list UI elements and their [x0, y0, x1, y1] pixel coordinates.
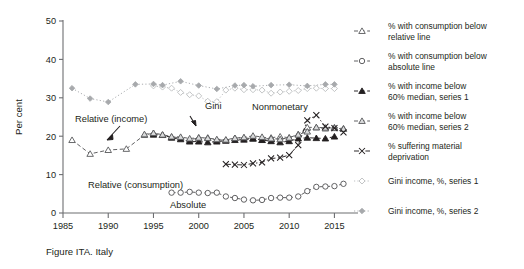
- y-tick-label: 10: [46, 170, 56, 180]
- figure-container: 010203040501985199019952000200520102015P…: [0, 0, 524, 269]
- legend-label: Gini income, %, series 2: [388, 206, 479, 216]
- legend-label-line2: absolute line: [388, 62, 435, 72]
- x-tick-label: 1995: [143, 221, 163, 231]
- x-tick-label: 1990: [98, 221, 118, 231]
- legend-label: % with consumption below: [388, 21, 488, 31]
- legend-label-line2: deprivation: [388, 152, 429, 162]
- x-tick-label: 2005: [234, 221, 254, 231]
- x-tick-label: 2015: [324, 221, 344, 231]
- x-tick-label: 2000: [188, 221, 208, 231]
- chart-canvas: 010203040501985199019952000200520102015P…: [0, 0, 524, 269]
- x-tick-label: 2010: [279, 221, 299, 231]
- y-tick-label: 20: [46, 132, 56, 142]
- y-tick-label: 30: [46, 93, 56, 103]
- legend-label: % with income below: [388, 81, 467, 91]
- y-tick-label: 40: [46, 55, 56, 65]
- x-tick-label: 1985: [53, 221, 73, 231]
- plot-annotation-5: Absolute: [170, 200, 206, 210]
- y-tick-label: 0: [51, 208, 56, 218]
- legend-label-line2: 60% median, series 1: [388, 92, 469, 102]
- legend-label-line2: relative line: [388, 32, 431, 42]
- legend-marker-open-circle-icon: [359, 58, 364, 63]
- figure-caption: Figure ITA. Italy: [46, 246, 113, 257]
- y-tick-label: 50: [46, 16, 56, 26]
- legend-label: % suffering material: [388, 141, 462, 151]
- plot-annotation-2: Nonmonetary: [252, 102, 308, 112]
- legend-label-line2: 60% median, series 2: [388, 122, 469, 132]
- legend-label: Gini income, %, series 1: [388, 176, 479, 186]
- plot-annotation-1: Gini: [205, 101, 222, 111]
- legend-label: % with income below: [388, 111, 467, 121]
- plot-annotation-4: Relative (consumption): [88, 180, 183, 190]
- y-axis-title: Per cent: [13, 99, 24, 135]
- plot-annotation-3: Relative (income): [75, 114, 147, 124]
- legend-label: % with consumption below: [388, 51, 488, 61]
